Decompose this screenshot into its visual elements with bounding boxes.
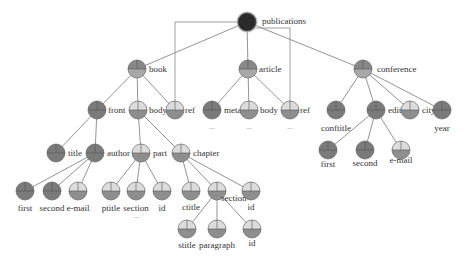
reference-link-book-ref [175, 22, 240, 103]
node-label-publications: publications [262, 16, 306, 26]
node-conference[interactable]: conference [354, 60, 416, 78]
node-bottom-half [319, 150, 337, 159]
node-label-editor-first: first [321, 159, 336, 169]
node-part-section[interactable]: section [123, 182, 149, 213]
node-section-id[interactable]: id [243, 220, 261, 248]
node-conftitle[interactable]: conftitle [321, 101, 351, 133]
node-section-stitle[interactable]: stitle [178, 220, 196, 250]
node-section-paragraph[interactable]: paragraph [199, 220, 235, 250]
node-chapter-id[interactable]: id [242, 182, 260, 212]
node-year[interactable]: year [433, 101, 451, 133]
node-part[interactable]: part [132, 144, 167, 162]
node-label-part-ptitle: ptitle [102, 203, 121, 213]
node-bottom-half [102, 191, 120, 200]
node-label-article-body: body [260, 105, 279, 115]
node-book[interactable]: book [128, 60, 168, 78]
node-label-editor-second: second [353, 158, 378, 168]
node-bottom-half [203, 110, 221, 119]
node-chapter-ctitle[interactable]: ctitle [182, 182, 200, 212]
node-bottom-half [182, 191, 200, 200]
node-label-author-first: first [18, 203, 33, 213]
node-article[interactable]: article [239, 60, 281, 78]
node-label-editor-email: e-mail [390, 155, 413, 165]
node-bottom-half [153, 191, 171, 200]
node-bottom-half [178, 229, 196, 238]
node-author-first[interactable]: first [16, 182, 34, 213]
node-article-ref[interactable]: ref [281, 101, 310, 119]
tree-nodes: publicationsbookarticleconferencefrontbo… [16, 12, 451, 251]
node-title[interactable]: title [47, 144, 82, 162]
node-label-section-stitle: stitle [178, 240, 196, 250]
node-bottom-half [43, 191, 61, 200]
node-bottom-half [128, 69, 146, 78]
node-bottom-half [433, 110, 451, 119]
node-bottom-half [129, 110, 147, 119]
xml-schema-tree-diagram: publicationsbookarticleconferencefrontbo… [0, 0, 466, 262]
node-author-email[interactable]: e-mail [67, 182, 90, 213]
node-label-chapter-id: id [247, 202, 255, 212]
node-bottom-half [172, 153, 190, 162]
node-book-front[interactable]: front [88, 101, 126, 119]
node-label-article: article [259, 64, 281, 74]
node-label-conference: conference [377, 64, 416, 74]
node-editor-first[interactable]: first [319, 141, 337, 169]
node-editor-email[interactable]: e-mail [390, 141, 413, 165]
node-article-meta[interactable]: meta [203, 101, 242, 119]
node-bottom-half [208, 229, 226, 238]
node-label-chapter-ctitle: ctitle [182, 202, 200, 212]
node-label-book-body: body [149, 105, 168, 115]
ellipsis-marker: ... [246, 122, 252, 131]
node-label-book: book [149, 64, 168, 74]
node-bottom-half [354, 69, 372, 78]
node-part-id[interactable]: id [153, 182, 171, 213]
node-bottom-half [86, 153, 104, 162]
node-part-ptitle[interactable]: ptitle [102, 182, 121, 213]
node-label-article-meta: meta [224, 105, 242, 115]
node-bottom-half [367, 110, 385, 119]
node-publications[interactable]: publications [237, 12, 307, 33]
node-bottom-half [127, 191, 145, 200]
ellipsis-marker: ... [287, 122, 293, 131]
node-bottom-half [327, 110, 345, 119]
node-label-chapter: chapter [193, 148, 219, 158]
node-label-author-email: e-mail [67, 203, 90, 213]
node-book-ref[interactable]: ref [166, 101, 195, 119]
node-bottom-half [240, 110, 258, 119]
ellipsis-marker: ... [134, 211, 140, 220]
node-label-book-front: front [108, 105, 126, 115]
node-label-section-id: id [248, 238, 256, 248]
node-bottom-half [281, 110, 299, 119]
node-label-part-id: id [158, 203, 166, 213]
node-bottom-half [47, 153, 65, 162]
node-chapter[interactable]: chapter [172, 144, 219, 162]
node-bottom-half [69, 191, 87, 200]
root-node-icon [238, 13, 256, 31]
node-label-title: title [68, 148, 82, 158]
node-label-author-second: second [40, 203, 65, 213]
node-author-second[interactable]: second [40, 182, 65, 213]
node-label-author: author [107, 148, 130, 158]
node-bottom-half [166, 110, 184, 119]
node-article-body[interactable]: body [240, 101, 279, 119]
node-editor-second[interactable]: second [353, 141, 378, 168]
node-label-section-paragraph: paragraph [199, 240, 235, 250]
node-label-conftitle: conftitle [321, 123, 351, 133]
node-label-part: part [153, 148, 167, 158]
tree-svg: publicationsbookarticleconferencefrontbo… [0, 0, 466, 262]
node-bottom-half [88, 110, 106, 119]
edge-publications-book [137, 22, 247, 69]
ellipsis-marker: ... [209, 122, 215, 131]
node-book-body[interactable]: body [129, 101, 168, 119]
node-label-year: year [434, 123, 450, 133]
edge-publications-conference [247, 22, 363, 69]
node-label-article-ref: ref [300, 105, 310, 115]
node-bottom-half [401, 110, 419, 119]
node-bottom-half [16, 191, 34, 200]
reference-links [175, 22, 290, 103]
node-bottom-half [243, 229, 261, 238]
node-label-book-ref: ref [185, 105, 195, 115]
node-author[interactable]: author [86, 144, 130, 162]
